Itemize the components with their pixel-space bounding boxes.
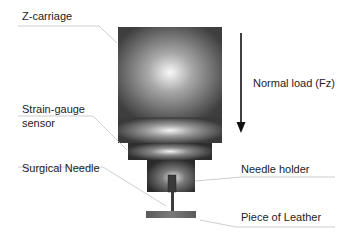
surgical-needle-shaft [171,192,174,211]
leader-needle-holder [195,177,335,181]
leather-piece [146,211,196,218]
label-needle-holder: Needle holder [241,163,310,175]
needle-clamp [168,175,176,192]
label-strain-gauge-line2: sensor [22,117,55,129]
label-strain-gauge-line1: Strain-gauge [22,103,85,115]
label-normal-load: Normal load (Fz) [253,77,335,89]
apparatus-diagram: Z-carriage Strain-gauge sensor Surgical … [0,0,358,242]
sensor-lower-tier [128,143,212,160]
z-carriage-block [118,27,222,118]
strain-gauge-sensor-block [118,118,222,143]
leader-z-carriage [18,26,117,43]
label-leather: Piece of Leather [241,211,321,223]
label-surgical-needle: Surgical Needle [22,162,100,174]
normal-load-arrow [237,33,246,133]
label-z-carriage: Z-carriage [22,10,72,22]
